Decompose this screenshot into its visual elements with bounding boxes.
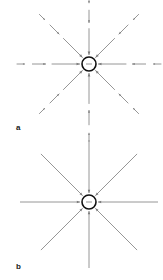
arrowhead-icon [76,63,80,66]
arrowhead-icon [23,63,25,65]
field-vector-top-left-1 [63,38,82,57]
panel-label-b: b [16,262,21,271]
panel-label-a: a [16,123,21,132]
field-diagram: a b [0,0,163,280]
field-vector-top-right-1 [95,38,114,57]
arrowhead-icon [98,63,102,66]
field-vector-bottom-right-1 [95,70,114,89]
panel-b-field-lines: b [16,140,158,271]
arrowhead-icon [88,51,91,55]
field-line-top-left [41,154,83,196]
arrowhead-icon [43,63,46,65]
arrowhead-icon [88,1,90,3]
panel-a-vector-field: a [16,0,161,142]
field-line-bottom-right [95,208,137,250]
arrowhead-icon [98,201,101,203]
field-line-top-right [95,154,137,196]
arrowhead-icon [88,190,90,193]
arrowhead-icon [88,133,90,135]
field-line-bottom-left [41,208,83,250]
arrowhead-icon [132,63,135,65]
arrowhead-icon [88,211,90,214]
arrowhead-icon [88,110,90,113]
arrowhead-icon [88,20,90,23]
arrowhead-icon [77,201,80,203]
arrowhead-icon [88,73,91,77]
arrowhead-icon [153,63,155,65]
field-vector-bottom-left-1 [63,70,82,89]
